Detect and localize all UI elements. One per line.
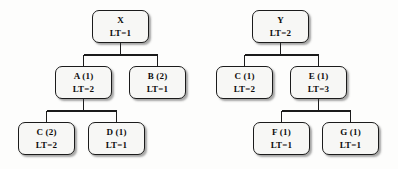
node-x[interactable]: XLT=1: [92, 10, 149, 43]
node-label: B (2): [148, 71, 168, 81]
node-lt-value: LT=1: [271, 140, 293, 150]
node-d1[interactable]: D (1)LT=1: [88, 122, 145, 155]
node-label: G (1): [340, 127, 361, 137]
node-label: C (1): [234, 71, 254, 81]
node-lt-value: LT=1: [147, 84, 169, 94]
node-c1[interactable]: C (1)LT=2: [216, 66, 273, 99]
node-g1[interactable]: G (1)LT=1: [322, 122, 379, 155]
node-b2[interactable]: B (2)LT=1: [129, 66, 186, 99]
node-label: E (1): [309, 71, 329, 81]
node-f1[interactable]: F (1)LT=1: [253, 122, 310, 155]
node-lt-value: LT=2: [73, 84, 95, 94]
node-label: X: [117, 15, 124, 25]
node-lt-value: LT=1: [106, 140, 128, 150]
node-label: A (1): [74, 71, 94, 81]
node-lt-value: LT=2: [36, 140, 58, 150]
node-lt-value: LT=2: [234, 84, 256, 94]
node-lt-value: LT=1: [340, 140, 362, 150]
node-y[interactable]: YLT=2: [252, 10, 309, 43]
node-label: C (2): [36, 127, 56, 137]
diagram-canvas: XLT=1A (1)LT=2B (2)LT=1C (2)LT=2D (1)LT=…: [0, 0, 398, 169]
node-lt-value: LT=2: [270, 28, 292, 38]
node-label: D (1): [106, 127, 126, 137]
node-a1[interactable]: A (1)LT=2: [55, 66, 112, 99]
node-label: Y: [277, 15, 284, 25]
node-e1[interactable]: E (1)LT=3: [290, 66, 347, 99]
node-label: F (1): [272, 127, 291, 137]
node-c2[interactable]: C (2)LT=2: [18, 122, 75, 155]
node-lt-value: LT=3: [308, 84, 330, 94]
node-lt-value: LT=1: [110, 28, 132, 38]
